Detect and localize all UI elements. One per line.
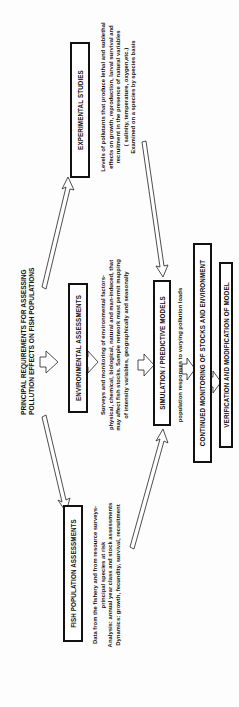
experimental-studies-label: EXPERIMENTAL STUDIES	[77, 70, 84, 150]
title-line-2: POLLUTION EFFECTS ON FISH POPULATIONS	[28, 275, 36, 415]
experimental-desc-line: Levels of pollutants that produce lethal…	[100, 2, 108, 192]
environmental-desc-line: Surveys and monitoring of environmental …	[100, 245, 108, 445]
environmental-description: Surveys and monitoring of environmental …	[100, 245, 130, 445]
fish-population-assessments-box: FISH POPULATION ASSESSMENTS	[63, 505, 83, 642]
experimental-desc-line: ( salinity, temperature, oxygen,etc.)	[123, 2, 131, 192]
environmental-desc-line: physical, chemical, biological, natural …	[108, 245, 116, 445]
experimental-desc-line: recruitment in the presence of natural v…	[115, 2, 123, 192]
experimental-desc-line: effects on growth, reproduction, larval …	[108, 2, 116, 192]
verification-modification-box: VERIFICATION AND MODIFICATION OF MODEL	[219, 262, 233, 448]
environmental-desc-line: of intensity variables, geographically a…	[123, 245, 131, 445]
chevron-desc-to-sim-icon	[138, 354, 154, 376]
simulation-predictive-models-box: SIMULATION / PREDICTIVE MODELS	[153, 280, 171, 426]
environmental-assessments-box: ENVIRONMENTAL ASSESSMENTS	[68, 283, 88, 413]
fish-population-description: Data from the fishery and from resource …	[92, 485, 122, 665]
arrow-title-to-fish-icon	[42, 415, 70, 512]
experimental-description: Levels of pollutants that produce lethal…	[100, 2, 138, 192]
verification-label: VERIFICATION AND MODIFICATION OF MODEL	[223, 282, 230, 427]
chevron-title-to-env-icon	[40, 351, 58, 373]
simulation-desc-line: population responses to varying pollutio…	[177, 265, 185, 445]
fish-desc-line: Data from the fishery and from resource …	[92, 485, 100, 665]
fish-desc-line: Analysis: annual year class and stock as…	[107, 485, 115, 665]
continued-monitoring-box: CONTINUED MONITORING OF STOCKS AND ENVIR…	[193, 243, 212, 463]
fish-desc-line: Dynamics: growth, fecundity, survival, r…	[115, 485, 123, 665]
fish-population-assessments-label: FISH POPULATION ASSESSMENTS	[70, 519, 77, 628]
title-line-1: PRINCIPAL REQUIREMENTS FOR ASSESSING	[20, 275, 28, 415]
arrow-fish-to-simulation-icon	[130, 429, 168, 549]
diagram-title: PRINCIPAL REQUIREMENTS FOR ASSESSING POL…	[20, 275, 36, 415]
continued-monitoring-label: CONTINUED MONITORING OF STOCKS AND ENVIR…	[199, 260, 206, 446]
arrow-title-to-experimental-icon	[42, 177, 74, 289]
environmental-desc-line: may affect fish stocks. Sample network m…	[115, 245, 123, 445]
arrow-experimental-to-simulation-icon	[142, 141, 168, 277]
simulation-label: SIMULATION / PREDICTIVE MODELS	[159, 296, 166, 409]
experimental-studies-box: EXPERIMENTAL STUDIES	[70, 42, 90, 178]
simulation-description: population responses to varying pollutio…	[177, 265, 185, 445]
environmental-assessments-label: ENVIRONMENTAL ASSESSMENTS	[75, 295, 82, 401]
experimental-desc-line: Examined on a species by species basis	[130, 2, 138, 192]
diagram-canvas: PRINCIPAL REQUIREMENTS FOR ASSESSING POL…	[0, 0, 239, 707]
fish-desc-line: principal species at risk	[100, 485, 108, 665]
